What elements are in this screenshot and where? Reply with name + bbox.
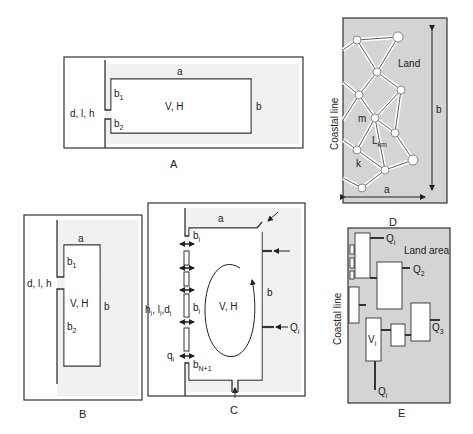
panel-c-label: C xyxy=(230,404,238,416)
panel-b-side-a: a xyxy=(78,233,84,244)
panel-b-channel: d, l, h xyxy=(27,278,51,289)
panel-e-land-area-label: Land area xyxy=(404,245,449,256)
panel-c-side-a: a xyxy=(218,213,224,224)
panel-d-height-b: b xyxy=(436,104,442,115)
panel-d: Land m k Lkm a b Coastal line D xyxy=(329,18,447,228)
panel-d-coastal-line-label: Coastal line xyxy=(329,97,340,150)
panel-a-volume-head: V, H xyxy=(165,101,184,112)
panel-c-island-1 xyxy=(184,251,189,265)
panel-b-volume-head: V, H xyxy=(70,298,89,309)
panel-e-coastal-line-label: Coastal line xyxy=(332,292,343,345)
lagoon-schematics-figure: a b b1 b2 V, H d, l, h A a b b1 b2 V, H … xyxy=(0,0,473,434)
panel-a-channel: d, l, h xyxy=(70,108,94,119)
panel-c-island-3 xyxy=(184,294,189,317)
panel-c: a b bi bi bN+1 V, H hi, li,di qi Qi C xyxy=(145,203,305,416)
panel-a-side-a: a xyxy=(177,66,183,77)
panel-a: a b b1 b2 V, H d, l, h A xyxy=(64,57,303,170)
panel-c-island-4 xyxy=(184,328,189,351)
panel-e-label: E xyxy=(398,407,405,419)
panel-d-land-label: Land xyxy=(398,58,420,69)
panel-c-side-b: b xyxy=(267,287,273,298)
panel-b-label: B xyxy=(79,408,86,420)
panel-a-label: A xyxy=(170,158,178,170)
panel-b-side-b: b xyxy=(104,301,110,312)
panel-d-node-m: m xyxy=(358,113,366,124)
panel-c-island-2 xyxy=(184,272,189,286)
panel-e: Qi Land area Q2 Q3 Qi Vi Coastal line E xyxy=(332,228,450,419)
panel-c-volume-head: V, H xyxy=(219,301,238,312)
panel-d-label: D xyxy=(389,216,397,228)
panel-a-side-b: b xyxy=(256,101,262,112)
panel-d-width-a: a xyxy=(384,184,390,195)
panel-b: a b b1 b2 V, H d, l, h B xyxy=(24,215,142,420)
